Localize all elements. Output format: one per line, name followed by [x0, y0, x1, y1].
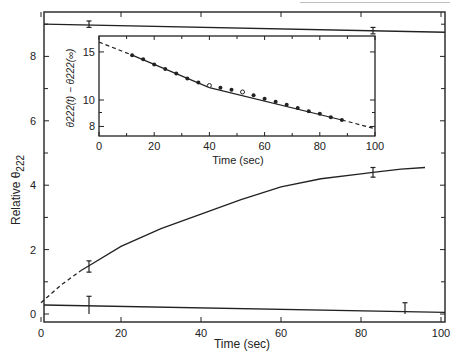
upper-baseline — [44, 24, 445, 32]
inset-data-point-filled — [329, 115, 333, 119]
inset-data-point-open — [241, 90, 245, 94]
x-tick-label: 100 — [432, 327, 450, 339]
x-tick-label: 60 — [275, 327, 287, 339]
x-tick-label: 80 — [355, 327, 367, 339]
inset-x-tick-label: 60 — [258, 140, 270, 152]
inset-x-axis-label: Time (sec) — [212, 154, 264, 166]
y-tick-label: 8 — [30, 50, 36, 62]
main-x-axis-label: Time (sec) — [214, 337, 270, 351]
inset-y-tick-label: 8 — [89, 120, 95, 132]
inset-data-point-filled — [318, 112, 322, 116]
inset-x-tick-label: 40 — [203, 140, 215, 152]
inset-data-point-filled — [174, 72, 178, 76]
inset-y-tick-label: 10 — [83, 94, 95, 106]
x-tick-label: 40 — [195, 327, 207, 339]
inset-x-tick-label: 0 — [96, 140, 102, 152]
main-y-axis-label: Relative θ222 — [9, 155, 26, 225]
inset-data-point-open — [207, 84, 211, 88]
inset-data-point-filled — [185, 76, 189, 80]
inset-data-point-filled — [296, 106, 300, 110]
inset-data-point-filled — [252, 93, 256, 97]
main-y-axis-label-text: Relative θ — [9, 171, 23, 225]
chart: 02040608010002468 02040608010081015 Time… — [0, 0, 456, 356]
inset-border — [99, 36, 375, 136]
inset-data-point-filled — [218, 86, 222, 90]
lower-baseline — [44, 305, 445, 312]
inset-data-point-filled — [263, 97, 267, 101]
y-tick-label: 4 — [30, 179, 36, 191]
inset-data-point-filled — [307, 109, 311, 113]
inset-data-point-filled — [340, 118, 344, 122]
inset-data-point-filled — [152, 62, 156, 66]
inset-data-point-filled — [130, 53, 134, 57]
x-tick-label: 0 — [38, 327, 44, 339]
growth-curve-extrapolation — [41, 271, 81, 303]
inset-data-point-filled — [141, 57, 145, 61]
inset-data-point-filled — [196, 80, 200, 84]
inset-plot: 02040608010081015 — [83, 36, 384, 152]
x-tick-label: 20 — [115, 327, 127, 339]
main-y-axis-label-subscript: 222 — [15, 155, 26, 172]
inset-y-axis-label: θ222(t) − θ222(∞) — [65, 49, 76, 128]
inset-data-point-filled — [163, 67, 167, 71]
y-tick-label: 0 — [30, 308, 36, 320]
y-tick-label: 2 — [30, 244, 36, 256]
inset-data-point-filled — [285, 103, 289, 107]
y-tick-label: 6 — [30, 115, 36, 127]
inset-x-tick-label: 100 — [366, 140, 384, 152]
inset-data-point-filled — [274, 100, 278, 104]
inset-x-tick-label: 20 — [148, 140, 160, 152]
inset-y-tick-label: 15 — [83, 46, 95, 58]
growth-curve — [81, 167, 425, 270]
inset-data-point-filled — [229, 88, 233, 92]
inset-x-tick-label: 80 — [314, 140, 326, 152]
